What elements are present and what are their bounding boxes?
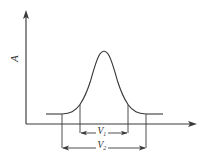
peak-curve <box>62 51 146 114</box>
inner-width-subscript: 1 <box>103 131 106 137</box>
outer-width-label: V2 <box>96 141 108 152</box>
outer-width-subscript: 2 <box>103 145 106 151</box>
inner-width-label: V1 <box>96 127 108 138</box>
y-axis-label: A <box>9 55 20 62</box>
spectral-peak-figure: A V1 V2 <box>0 0 203 166</box>
